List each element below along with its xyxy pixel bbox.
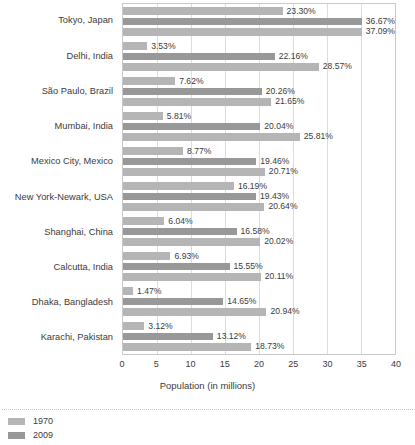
bar-row[interactable]: 22.16% [123,53,395,61]
bar[interactable] [123,53,275,61]
bar-row[interactable]: 20.64% [123,203,395,211]
bar-value-label: 22.16% [279,52,308,61]
bar[interactable] [123,252,170,260]
bar-row[interactable]: 16.19% [123,182,395,190]
x-tick-label: 40 [391,359,401,369]
bar[interactable] [123,228,237,236]
bar[interactable] [123,273,261,281]
bar-row[interactable]: 16.58% [123,228,395,236]
bar-row[interactable]: 28.57% [123,63,395,71]
bar-row[interactable]: 20.26% [123,88,395,96]
bar[interactable] [123,322,144,330]
bar[interactable] [123,77,175,85]
bar-row[interactable]: 23.30% [123,7,395,15]
bar-value-label: 3.53% [151,42,175,51]
bar-row[interactable]: 20.04% [123,123,395,131]
bar-row[interactable]: 36.67% [123,18,395,26]
bar-value-label: 3.12% [148,322,172,331]
plot-wrapper: Tokyo, JapanDelhi, IndiaSão Paulo, Brazi… [0,0,415,360]
bar-row[interactable]: 7.62% [123,77,395,85]
bar-row[interactable]: 20.71% [123,168,395,176]
plot-area: 23.30%36.67%37.09%3.53%22.16%28.57%7.62%… [122,3,396,355]
bar[interactable] [123,308,266,316]
bar[interactable] [123,182,234,190]
bar-value-label: 6.04% [168,217,192,226]
legend-swatch [8,418,25,425]
bar[interactable] [123,333,213,341]
bar-group: 6.04%16.58%20.02% [123,214,395,249]
x-tick-label: 0 [119,359,124,369]
bar-value-label: 20.64% [268,202,297,211]
bar-value-label: 7.62% [179,77,203,86]
bar[interactable] [123,238,260,246]
bar[interactable] [123,168,265,176]
bar-row[interactable]: 18.73% [123,343,395,351]
category-axis-labels: Tokyo, JapanDelhi, IndiaSão Paulo, Brazi… [0,3,118,355]
bar[interactable] [123,7,283,15]
bar[interactable] [123,88,262,96]
bar[interactable] [123,18,362,26]
category-label: Delhi, India [0,38,118,73]
category-label: Karachi, Pakistan [0,320,118,355]
bar[interactable] [123,217,164,225]
bar-value-label: 25.81% [304,132,333,141]
bar[interactable] [123,42,147,50]
bar-value-label: 36.67% [366,17,395,26]
x-axis-ticks: 0510152025303540 [122,357,396,375]
legend-swatch [8,432,25,439]
bar-row[interactable]: 1.47% [123,287,395,295]
bar-value-label: 5.81% [167,112,191,121]
bar-row[interactable]: 20.02% [123,238,395,246]
category-label: New York-Newark, USA [0,179,118,214]
bar[interactable] [123,193,256,201]
category-label: São Paulo, Brazil [0,73,118,108]
legend-item[interactable]: 2009 [8,428,208,442]
bar[interactable] [123,98,271,106]
bar-group: 8.77%19.46%20.71% [123,144,395,179]
bar-row[interactable]: 20.11% [123,273,395,281]
bar-row[interactable]: 15.55% [123,263,395,271]
bar[interactable] [123,133,300,141]
legend-item[interactable]: 1970 [8,414,208,428]
bar[interactable] [123,203,264,211]
bar-row[interactable]: 19.46% [123,158,395,166]
bar[interactable] [123,63,319,71]
bar-value-label: 20.02% [264,237,293,246]
bar-value-label: 16.19% [238,182,267,191]
bar-group: 1.47%14.65%20.94% [123,284,395,319]
bar-row[interactable]: 14.65% [123,298,395,306]
bar-row[interactable]: 6.04% [123,217,395,225]
bar-row[interactable]: 25.81% [123,133,395,141]
category-label: Shanghai, China [0,214,118,249]
x-tick-label: 5 [154,359,159,369]
bar[interactable] [123,298,223,306]
bar-row[interactable]: 19.43% [123,193,395,201]
bar[interactable] [123,263,230,271]
bar-row[interactable]: 8.77% [123,147,395,155]
x-tick-label: 10 [185,359,195,369]
bar[interactable] [123,343,251,351]
bar-row[interactable]: 3.53% [123,42,395,50]
bar[interactable] [123,112,163,120]
bar[interactable] [123,147,183,155]
bar-group: 6.93%15.55%20.11% [123,249,395,284]
bar-group: 23.30%36.67%37.09% [123,4,395,39]
bar-row[interactable]: 5.81% [123,112,395,120]
bar[interactable] [123,28,362,36]
bar[interactable] [123,287,133,295]
bar-row[interactable]: 3.12% [123,322,395,330]
bar-row[interactable]: 37.09% [123,28,395,36]
bar-row[interactable]: 13.12% [123,333,395,341]
bar-row[interactable]: 6.93% [123,252,395,260]
bar-row[interactable]: 21.65% [123,98,395,106]
bar[interactable] [123,158,256,166]
bar-value-label: 6.93% [174,252,198,261]
bar-value-label: 20.71% [269,167,298,176]
bar-row[interactable]: 20.94% [123,308,395,316]
bar-value-label: 8.77% [187,147,211,156]
bar-group: 5.81%20.04%25.81% [123,109,395,144]
bar-value-label: 19.43% [260,192,289,201]
bar-value-label: 37.09% [366,27,395,36]
bar-value-label: 14.65% [227,297,256,306]
bar[interactable] [123,123,260,131]
